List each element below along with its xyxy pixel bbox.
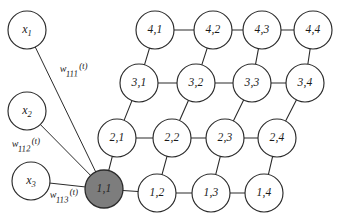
lattice-node-3-3[interactable]: 3,3 — [233, 64, 271, 102]
lattice-edge-34-44 — [308, 49, 310, 64]
neuron-label: 4,3 — [255, 23, 270, 36]
weight-label-w112: w112(t) — [11, 136, 41, 155]
lattice-edge-24-34 — [286, 100, 297, 121]
neuron-label: 3,1 — [131, 76, 147, 89]
neuron-label: 3,3 — [244, 76, 260, 89]
lattice-edge-31-41 — [144, 48, 149, 65]
neuron-label: 1,1 — [97, 182, 112, 195]
input-edge-x3-to-11 — [50, 183, 85, 187]
som-network-diagram: 1,11,21,31,42,12,22,32,43,13,23,33,44,14… — [0, 0, 340, 223]
neuron-label: 1,2 — [150, 186, 165, 199]
neuron-label: 2,4 — [270, 131, 285, 144]
lattice-edge-23-33 — [233, 100, 243, 121]
lattice-edge-14-24 — [268, 156, 272, 174]
lattice-node-1-4[interactable]: 1,4 — [245, 174, 283, 212]
lattice-node-1-2[interactable]: 1,2 — [138, 174, 176, 212]
lattice-edge-21-31 — [124, 101, 132, 121]
lattice-edge-12-22 — [162, 156, 167, 174]
neuron-label: 3,2 — [188, 76, 204, 89]
neuron-label: 1,3 — [204, 186, 219, 199]
lattice-node-2-2[interactable]: 2,2 — [153, 119, 191, 157]
input-node-x3[interactable]: x3 — [12, 162, 50, 200]
lattice-node-3-2[interactable]: 3,2 — [177, 64, 215, 102]
weight-label-w113: w113(t) — [49, 187, 79, 206]
lattice-node-2-4[interactable]: 2,4 — [258, 119, 296, 157]
neuron-label: 2,1 — [110, 131, 125, 144]
lattice-node-4-4[interactable]: 4,4 — [294, 11, 332, 49]
lattice-node-1-3[interactable]: 1,3 — [192, 174, 230, 212]
lattice-edge-11-12 — [123, 190, 138, 191]
lattice-node-2-3[interactable]: 2,3 — [206, 119, 244, 157]
neuron-label: 4,4 — [306, 23, 321, 36]
lattice-node-4-1[interactable]: 4,1 — [136, 11, 174, 49]
neuron-label: 4,1 — [148, 23, 163, 36]
lattice-edge-13-23 — [216, 156, 221, 174]
diagram-canvas: 1,11,21,31,42,12,22,32,43,13,23,33,44,14… — [0, 0, 340, 223]
lattice-edge-11-21 — [109, 156, 113, 170]
lattice-edge-32-42 — [202, 48, 207, 65]
neuron-label: 2,3 — [218, 131, 233, 144]
input-node-layer: x1x2x3 — [8, 11, 50, 200]
weight-label-w111: w111(t) — [59, 61, 88, 80]
weight-label-text: w112(t) — [11, 136, 41, 155]
weight-label-text: w111(t) — [59, 61, 88, 80]
neuron-label: 4,2 — [206, 23, 221, 36]
lattice-edge-layer — [109, 30, 310, 193]
input-node-x1[interactable]: x1 — [8, 11, 46, 49]
lattice-node-3-4[interactable]: 3,4 — [286, 64, 324, 102]
neuron-label: 1,4 — [257, 186, 272, 199]
lattice-edge-33-43 — [256, 49, 259, 65]
input-edge-x2-to-11 — [40, 125, 90, 176]
lattice-node-2-1[interactable]: 2,1 — [98, 119, 136, 157]
input-node-x2[interactable]: x2 — [8, 92, 46, 130]
neuron-label: 2,2 — [165, 131, 180, 144]
lattice-node-3-1[interactable]: 3,1 — [120, 64, 158, 102]
lattice-node-4-2[interactable]: 4,2 — [194, 11, 232, 49]
lattice-node-layer: 1,11,21,31,42,12,22,32,43,13,23,33,44,14… — [85, 11, 332, 212]
lattice-edge-22-32 — [180, 100, 189, 120]
lattice-node-4-3[interactable]: 4,3 — [243, 11, 281, 49]
lattice-node-1-1[interactable]: 1,1 — [85, 170, 123, 208]
weight-label-text: w113(t) — [49, 187, 79, 206]
neuron-label: 3,4 — [297, 76, 313, 89]
